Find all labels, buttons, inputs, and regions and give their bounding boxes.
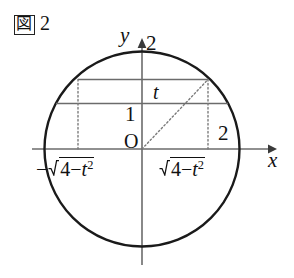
tick-label-y-2: 2 — [146, 33, 157, 54]
radical-tick-icon — [159, 159, 170, 176]
left-radicand-minus: − — [70, 158, 81, 180]
figure-caption: 図2 — [14, 13, 51, 35]
figure-caption-kanji: 図 — [14, 15, 35, 35]
right-radical-vinculum: 4−t2 — [170, 157, 205, 179]
left-root-label: −4−t2 — [36, 157, 94, 179]
right-radicand-exponent: 2 — [198, 158, 204, 172]
right-radicand: 4−t2 — [170, 159, 205, 179]
right-radicand-minus: − — [181, 158, 192, 180]
radical-tick-icon — [48, 159, 59, 176]
tick-label-x-2: 2 — [218, 123, 229, 144]
dotted-radius-segment — [142, 80, 208, 150]
figure-caption-number: 2 — [40, 13, 51, 33]
parameter-t-label: t — [153, 82, 159, 102]
left-root-minus-sign: − — [36, 158, 47, 180]
x-axis-label: x — [268, 150, 277, 171]
left-radical-vinculum: 4−t2 — [59, 157, 94, 179]
left-radical: 4−t2 — [48, 157, 94, 179]
tick-label-y-1: 1 — [125, 104, 136, 125]
right-radical: 4−t2 — [159, 157, 205, 179]
right-radicand-four: 4 — [171, 158, 181, 180]
left-radicand-four: 4 — [60, 158, 70, 180]
origin-label: O — [124, 131, 138, 151]
y-axis-label: y — [120, 25, 129, 46]
left-radicand: 4−t2 — [59, 159, 94, 179]
left-radicand-exponent: 2 — [87, 158, 93, 172]
right-root-label: 4−t2 — [159, 157, 205, 179]
figure-container: 図2 y x 2 1 2 O t −4−t2 4−t2 — [0, 0, 294, 278]
